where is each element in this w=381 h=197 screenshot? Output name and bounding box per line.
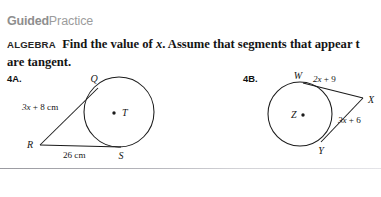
measurement-26-cm: 26 cm — [63, 150, 85, 160]
segment-wx — [303, 83, 363, 98]
directions-line1-part2: . Assume that segments that appear t — [162, 37, 359, 51]
circle-z — [268, 82, 332, 146]
directions: ALGEBRA Find the value of x. Assume that… — [7, 34, 381, 70]
directions-line1-part1: Find the value of — [62, 37, 156, 51]
page-divider — [0, 168, 381, 169]
center-point-z-dot — [301, 113, 304, 116]
center-point-t-dot — [112, 111, 115, 114]
section-header: GuidedPractice — [7, 11, 93, 29]
measurement-3x-plus-6: 3x + 6 — [337, 115, 361, 125]
section-header-guided: Guided — [7, 14, 49, 28]
center-label-z: Z — [291, 109, 297, 120]
figure-4a: Q R S T 3x + 8 cm 26 cm — [18, 66, 188, 162]
measurement-2x-plus-9: 2x + 9 — [313, 74, 336, 84]
segment-rq — [40, 88, 98, 145]
point-label-y: Y — [318, 145, 325, 156]
point-label-r: R — [26, 139, 33, 150]
section-header-practice: Practice — [49, 14, 93, 28]
point-label-s: S — [119, 150, 124, 161]
center-label-t: T — [122, 107, 129, 118]
figure-4b: W X Y Z 2x + 9 3x + 6 — [255, 66, 381, 162]
point-label-x: X — [367, 94, 375, 105]
point-label-q: Q — [90, 73, 98, 84]
circle-t — [84, 77, 154, 147]
point-label-w: W — [294, 70, 304, 81]
algebra-tag: ALGEBRA — [7, 39, 56, 50]
measurement-3x-plus-8-cm: 3x + 8 cm — [21, 102, 58, 112]
